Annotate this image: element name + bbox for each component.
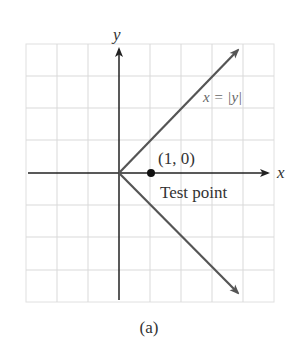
graph-figure: y x x = |y| (1, 0) Test point (a) xyxy=(0,0,298,362)
curve-label: x = |y| xyxy=(202,89,242,105)
x-axis-label: x xyxy=(276,163,285,182)
test-point-coords: (1, 0) xyxy=(158,149,195,168)
figure-caption: (a) xyxy=(0,318,298,338)
test-point-label: Test point xyxy=(160,183,228,202)
test-point-marker xyxy=(147,169,155,177)
y-axis-label: y xyxy=(111,25,121,44)
coordinate-plane: y x x = |y| (1, 0) Test point xyxy=(0,0,298,362)
